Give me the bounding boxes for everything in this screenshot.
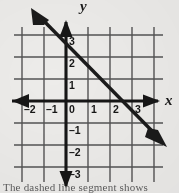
x-tick-0: 0: [69, 104, 75, 115]
x-tick-minus-1: –1: [46, 104, 58, 115]
caption-sliver: The dashed line segment shows: [0, 183, 179, 193]
y-tick-minus-3: –3: [69, 169, 81, 180]
y-tick-1: 1: [69, 80, 75, 91]
y-tick-3: 3: [69, 36, 75, 47]
x-axis-label: x: [165, 92, 173, 109]
y-tick-minus-1: –1: [69, 125, 81, 136]
x-tick-minus-2: –2: [24, 104, 36, 115]
caption-text: The dashed line segment shows: [3, 183, 148, 193]
x-tick-3: 3: [135, 104, 141, 115]
line-arrow-lower-right-icon: [145, 128, 167, 147]
x-tick-2: 2: [113, 104, 119, 115]
y-tick-2: 2: [69, 58, 75, 69]
line-arrow-upper-left-icon: [31, 8, 49, 25]
y-tick-minus-2: –2: [69, 147, 81, 158]
y-axis-label: y: [80, 0, 87, 15]
x-axis-arrow-right-icon: [143, 95, 160, 108]
x-tick-1: 1: [91, 104, 97, 115]
plotted-line-series: [31, 8, 167, 147]
graph-figure: y x –2 –1 0 1 2 3 3 2 1 –1 –2 –3 The das…: [0, 0, 179, 193]
coordinate-grid-svg: [0, 0, 179, 193]
